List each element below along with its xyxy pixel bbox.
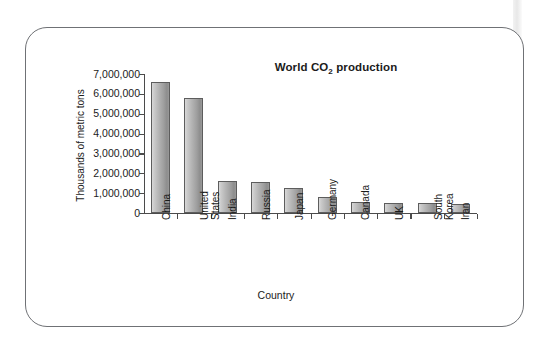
x-axis-category-label: United States: [199, 191, 221, 220]
x-axis-category-label: Canada: [360, 185, 371, 220]
x-axis-category-label: UK: [394, 206, 405, 220]
x-axis-category-label: Russia: [261, 189, 272, 220]
x-axis-category-label: India: [227, 198, 238, 220]
bar-chart: World CO2 production Thousands of metric…: [26, 28, 525, 328]
x-axis-category-label: Japan: [294, 193, 305, 220]
figure-card: World CO2 production Thousands of metric…: [25, 27, 524, 327]
x-axis-category-label: Germany: [327, 179, 338, 220]
bar-slot: [151, 74, 170, 213]
x-axis-category-label: China: [161, 194, 172, 220]
bars-layer: [26, 28, 525, 328]
bar-slot: [384, 74, 403, 213]
x-axis-category-label: South Korea: [433, 193, 455, 220]
bar-slot: [418, 74, 437, 213]
x-axis-category-label: Iran: [460, 203, 471, 220]
x-axis-title: Country: [216, 289, 336, 301]
